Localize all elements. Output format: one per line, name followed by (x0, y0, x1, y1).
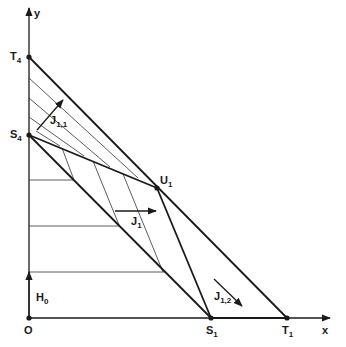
label-u1: U1 (160, 174, 173, 189)
label-t4: T4 (10, 50, 22, 65)
point-o-icon (26, 315, 31, 320)
label-j11: J1,1 (50, 114, 68, 129)
point-t1-icon (284, 315, 289, 320)
label-s4: S4 (10, 128, 22, 143)
hatch-diagonal-line (29, 78, 138, 178)
point-s4-icon (26, 132, 31, 137)
label-o: O (24, 324, 33, 336)
label-s1: S1 (206, 324, 218, 339)
flow-arrows: H0J1,1J1J1,2 (29, 100, 242, 318)
point-t4-icon (26, 54, 31, 59)
x-axis-label: x (322, 324, 329, 336)
region-diagram: x y H0J1,1J1J1,2 OT4S4U1S1T1 (0, 0, 346, 347)
y-axis-label: y (34, 7, 41, 19)
line-S4-S1 (29, 135, 211, 318)
line-U1-S1 (157, 188, 211, 318)
point-s1-icon (208, 315, 213, 320)
vertex-points: OT4S4U1S1T1 (10, 50, 294, 339)
label-j12: J1,2 (214, 290, 232, 305)
point-u1-icon (154, 185, 159, 190)
label-h0: H0 (36, 291, 49, 306)
label-t1: T1 (282, 324, 294, 339)
hatch-diagonal-line (29, 98, 110, 167)
